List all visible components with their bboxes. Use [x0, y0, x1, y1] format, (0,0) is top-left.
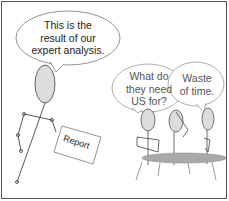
speaker-line-2: result of our [18, 32, 118, 45]
listener-bubble-2-text: Waste of time. [172, 72, 222, 97]
listener-2-line-1: Waste [172, 72, 222, 85]
presenter-figure [16, 65, 57, 184]
listener-2-line-2: of time. [172, 85, 222, 98]
speaker-bubble-text: This is the result of our expert analysi… [18, 19, 118, 57]
meeting-table [136, 153, 226, 180]
speaker-line-3: expert analysis. [18, 44, 118, 57]
speaker-line-1: This is the [18, 19, 118, 32]
